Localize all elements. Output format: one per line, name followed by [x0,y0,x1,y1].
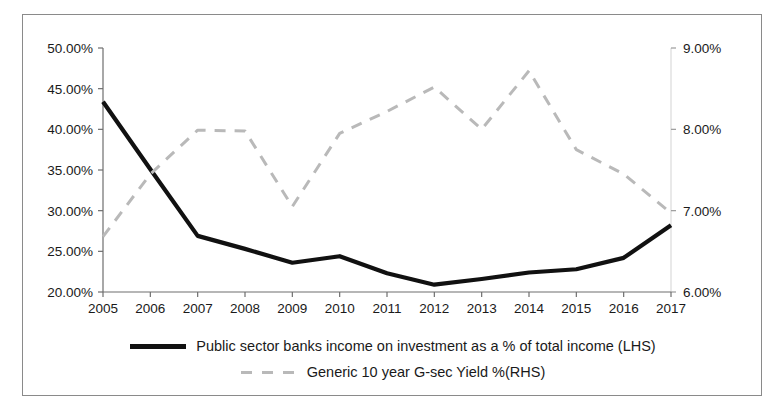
legend-label-gsec-yield: Generic 10 year G-sec Yield %(RHS) [307,364,546,380]
right-axis-tick-label: 8.00% [683,122,721,137]
legend-item-gsec-yield: Generic 10 year G-sec Yield %(RHS) [23,359,763,385]
right-axis-tick-label: 6.00% [683,285,721,300]
x-axis-tick-label: 2017 [656,301,686,316]
right-axis-tick-label: 7.00% [683,204,721,219]
x-axis-tick-label: 2010 [325,301,355,316]
x-axis-tick-label: 2006 [135,301,165,316]
x-axis-tick-label: 2014 [514,301,545,316]
left-axis-tick-label: 45.00% [47,82,93,97]
x-axis-tick-label: 2016 [609,301,639,316]
x-axis-tick-label: 2012 [419,301,449,316]
legend-swatch-dashed-icon [241,365,297,379]
left-axis-tick-label: 20.00% [47,285,93,300]
x-axis-tick-label: 2013 [467,301,497,316]
left-axis-tick-label: 40.00% [47,122,93,137]
left-axis-tick-label: 25.00% [47,244,93,259]
left-axis-tick-label: 50.00% [47,41,93,56]
chart-legend: Public sector banks income on investment… [23,333,763,385]
right-axis-tick-label: 9.00% [683,41,721,56]
series-line-public-sector-banks [103,102,671,285]
line-chart-plot: 20.00%25.00%30.00%35.00%40.00%45.00%50.0… [23,15,763,333]
x-axis-tick-label: 2009 [277,301,307,316]
legend-swatch-solid-icon [130,339,186,353]
series-line-gsec-yield [103,71,671,237]
left-axis-tick-label: 35.00% [47,163,93,178]
x-axis-tick-label: 2015 [561,301,591,316]
x-axis-tick-label: 2008 [230,301,260,316]
x-axis-tick-label: 2007 [183,301,213,316]
legend-item-public-sector-banks: Public sector banks income on investment… [23,333,763,359]
x-axis-tick-label: 2005 [88,301,118,316]
legend-label-public-sector-banks: Public sector banks income on investment… [196,338,655,354]
x-axis-tick-label: 2011 [372,301,401,316]
left-axis-tick-label: 30.00% [47,204,93,219]
chart-frame: 20.00%25.00%30.00%35.00%40.00%45.00%50.0… [22,14,762,396]
